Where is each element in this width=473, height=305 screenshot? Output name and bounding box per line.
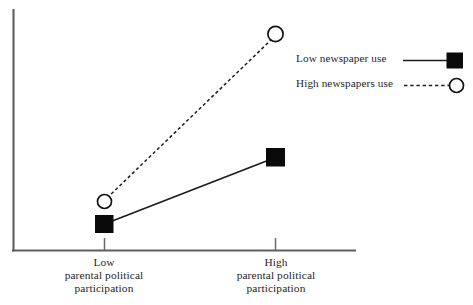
x-axis-label-low-line2: parental political — [24, 269, 184, 282]
data-point-low-low-x — [96, 216, 114, 233]
data-point-high-low-x — [98, 195, 112, 209]
legend-label-high-newspapers-use: High newspapers use — [296, 76, 393, 90]
x-axis-label-high: High parental political participation — [196, 256, 356, 296]
x-axis-label-high-line1: High — [196, 256, 356, 269]
x-axis-label-high-line3: participation — [196, 282, 356, 295]
x-axis-label-high-line2: parental political — [196, 269, 356, 282]
axes-group — [13, 10, 355, 251]
series-low-newspaper-use — [96, 149, 285, 233]
x-axis-label-low-line3: participation — [24, 282, 184, 295]
data-point-high-high-x — [268, 26, 283, 41]
series-high-line — [107, 39, 272, 198]
legend-item-high-newspapers-use: High newspapers use — [296, 75, 468, 100]
data-point-low-high-x — [267, 149, 285, 167]
series-high-newspapers-use — [98, 26, 284, 208]
legend-label-low-newspaper-use: Low newspaper use — [296, 51, 387, 65]
series-low-line — [105, 158, 276, 225]
legend-item-low-newspaper-use: Low newspaper use — [296, 50, 468, 75]
x-axis-label-low-line1: Low — [24, 256, 184, 269]
x-axis-label-low: Low parental political participation — [24, 256, 184, 296]
chart-legend: Low newspaper use High newspapers use — [296, 50, 468, 100]
interaction-line-chart: Low parental political participation Hig… — [0, 0, 473, 305]
